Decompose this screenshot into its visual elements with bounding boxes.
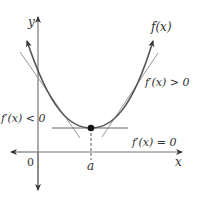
derivative-diagram: y x 0 a f(x) f′(x) > 0 f′(x) < 0 f′(x) =…	[0, 0, 198, 201]
curve-f-right	[91, 41, 153, 128]
curve-label: f(x)	[150, 20, 172, 34]
annotation-increasing: f′(x) > 0	[144, 76, 190, 89]
point-a-label: a	[87, 159, 94, 173]
annotation-critical: f′(x) = 0	[131, 136, 177, 149]
y-axis-label: y	[27, 15, 35, 29]
annotation-decreasing: f′(x) < 0	[0, 112, 46, 125]
tangent-right	[102, 53, 158, 137]
x-axis-label: x	[175, 155, 182, 169]
origin-label: 0	[27, 156, 34, 169]
critical-point	[88, 125, 95, 132]
